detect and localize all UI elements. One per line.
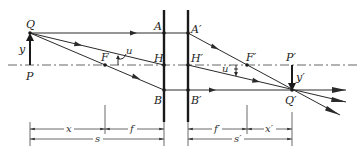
label-F: F <box>100 51 109 64</box>
dim-label-s-prime: s′ <box>234 133 242 144</box>
dim-label-f: f <box>129 123 136 134</box>
label-F-prime: F′ <box>245 51 257 64</box>
label-Q: Q <box>26 18 35 31</box>
ray-arrow-icon <box>74 41 82 46</box>
label-A-prime: A′ <box>190 23 202 36</box>
label-u-prime: u′ <box>222 63 231 74</box>
point-A <box>162 31 166 35</box>
ray-focal-in <box>30 33 164 90</box>
label-H-prime: H′ <box>190 52 204 65</box>
point-Q-prime <box>290 88 294 92</box>
ray-arrow-icon <box>132 74 140 80</box>
label-P: P <box>25 70 34 83</box>
ray-arrow-icon <box>130 31 137 36</box>
point-Q <box>28 31 32 35</box>
point-A-prime <box>186 31 190 35</box>
label-Q-prime: Q′ <box>285 94 297 107</box>
dim-label-x-prime: x′ <box>265 123 274 134</box>
label-B: B <box>153 94 162 107</box>
ray-arrow-icon <box>211 44 219 50</box>
ray-nodal-in <box>30 33 164 65</box>
ray-arrow-icon <box>209 88 216 93</box>
dim-label-f-prime: f′ <box>213 123 221 134</box>
label-A: A <box>153 20 162 33</box>
dim-label-x: x <box>66 123 72 134</box>
point-B-prime <box>186 88 190 92</box>
label-B-prime: B′ <box>190 94 202 107</box>
label-y-prime: y′ <box>295 71 305 84</box>
ray-arrow-end-icon <box>332 87 346 93</box>
label-y: y <box>18 43 26 56</box>
ray-focal-out <box>188 33 340 115</box>
label-u: u <box>126 45 132 56</box>
ray-nodal-out <box>188 65 346 102</box>
angle-u-arrow-icon <box>116 55 120 59</box>
ray-arrow-icon <box>252 78 260 83</box>
label-P-prime: P′ <box>285 51 296 64</box>
label-H: H <box>153 52 164 65</box>
point-H-prime <box>186 63 190 67</box>
point-B <box>162 88 166 92</box>
ray-arrow-end-icon <box>331 97 346 102</box>
dim-label-s: s <box>95 133 100 144</box>
optics-diagram: Q P y F u A H B A′ H′ B′ F′ u′ P′ y′ Q′ … <box>0 0 364 156</box>
ray-arrow-end-icon <box>325 106 340 115</box>
